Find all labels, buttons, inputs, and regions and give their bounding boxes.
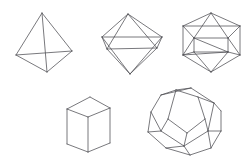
platonic-solids-figure bbox=[0, 0, 249, 160]
solid-cube bbox=[67, 97, 110, 152]
